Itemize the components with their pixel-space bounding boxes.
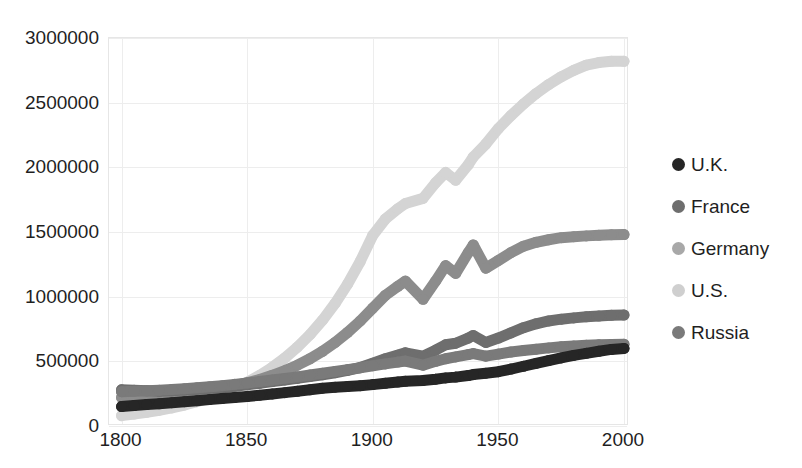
data-point [556, 314, 567, 325]
data-point [355, 380, 366, 391]
data-point [418, 193, 429, 204]
chart-root: 0500000100000015000002000000250000030000… [0, 0, 802, 468]
data-point [543, 342, 554, 353]
data-point [493, 349, 504, 360]
y-axis-tick-label: 0 [88, 416, 99, 435]
data-point [430, 356, 441, 367]
y-axis-tick-label: 2000000 [25, 157, 99, 176]
data-point [518, 322, 529, 333]
data-point [505, 327, 516, 338]
data-point [440, 260, 451, 271]
legend: U.K.FranceGermanyU.S.Russia [672, 143, 798, 353]
data-point [531, 88, 542, 99]
data-point [543, 79, 554, 90]
data-point [593, 230, 604, 241]
data-point [618, 56, 629, 67]
data-point [556, 232, 567, 243]
data-point [593, 311, 604, 322]
legend-item-germany[interactable]: Germany [672, 227, 798, 269]
data-point [543, 234, 554, 245]
data-point [606, 229, 617, 240]
data-point [292, 371, 303, 382]
data-point [154, 385, 165, 396]
data-point [556, 341, 567, 352]
data-point [292, 386, 303, 397]
data-point [267, 374, 278, 385]
series-u-k [116, 343, 629, 412]
legend-label: U.S. [691, 281, 728, 300]
legend-item-russia[interactable]: Russia [672, 311, 798, 353]
data-point [129, 386, 140, 397]
data-point [279, 373, 290, 384]
gridline-horizontal [109, 426, 627, 427]
data-point [531, 358, 542, 369]
data-point [229, 392, 240, 403]
data-point [480, 139, 491, 150]
legend-marker-icon [672, 284, 685, 297]
data-point [581, 60, 592, 71]
data-point [618, 229, 629, 240]
plot-area [108, 37, 628, 425]
data-point [367, 230, 378, 241]
data-point [606, 56, 617, 67]
data-point [342, 327, 353, 338]
data-point [440, 353, 451, 364]
data-point [380, 358, 391, 369]
data-point [242, 378, 253, 389]
data-point [304, 370, 315, 381]
data-point [217, 393, 228, 404]
data-point [204, 394, 215, 405]
data-point [292, 342, 303, 353]
x-axis-tick-label: 1850 [225, 430, 267, 449]
data-point [400, 356, 411, 367]
data-point [543, 315, 554, 326]
data-point [367, 303, 378, 314]
data-point [154, 398, 165, 409]
data-point [355, 362, 366, 373]
data-point [556, 71, 567, 82]
data-point [568, 350, 579, 361]
data-point [279, 387, 290, 398]
data-point [606, 344, 617, 355]
data-point [254, 376, 265, 387]
data-point [493, 123, 504, 134]
y-axis-tick-label: 2500000 [25, 92, 99, 111]
data-point [505, 364, 516, 375]
data-point [141, 399, 152, 410]
data-point [505, 110, 516, 121]
data-point [450, 175, 461, 186]
data-point [217, 380, 228, 391]
data-point [518, 241, 529, 252]
data-point [430, 345, 441, 356]
legend-label: France [691, 197, 750, 216]
data-point [430, 177, 441, 188]
data-point [418, 360, 429, 371]
data-point [418, 294, 429, 305]
data-point [518, 98, 529, 109]
series-svg [109, 38, 629, 426]
data-point [400, 276, 411, 287]
y-axis-tick-label: 3000000 [25, 28, 99, 47]
legend-item-france[interactable]: France [672, 185, 798, 227]
data-point [468, 330, 479, 341]
data-point [342, 278, 353, 289]
legend-marker-icon [672, 158, 685, 171]
legend-item-u-k[interactable]: U.K. [672, 143, 798, 185]
data-point [568, 65, 579, 76]
data-point [191, 382, 202, 393]
data-point [468, 239, 479, 250]
y-axis-tick-label: 1500000 [25, 222, 99, 241]
data-point [531, 344, 542, 355]
data-point [430, 276, 441, 287]
data-point [450, 351, 461, 362]
data-point [581, 230, 592, 241]
legend-item-u-s[interactable]: U.S. [672, 269, 798, 311]
data-point [618, 343, 629, 354]
series-layer [109, 38, 627, 424]
data-point [518, 345, 529, 356]
data-point [568, 231, 579, 242]
data-point [480, 368, 491, 379]
data-point [400, 198, 411, 209]
data-point [440, 167, 451, 178]
data-point [556, 352, 567, 363]
